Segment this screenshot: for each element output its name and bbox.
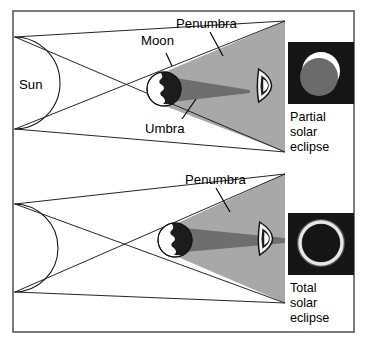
total-solar-eclipse-photo xyxy=(288,213,354,275)
partial-solar-eclipse-photo xyxy=(288,42,354,104)
caption-line: solar xyxy=(290,296,317,310)
label-moon-top: Moon xyxy=(141,33,174,48)
caption-line: Partial xyxy=(290,110,326,124)
caption-line: Total xyxy=(290,281,317,295)
label-penumbra-bottom: Penumbra xyxy=(185,172,247,187)
label-sun-top: Sun xyxy=(19,77,42,92)
label-umbra-top: Umbra xyxy=(145,121,185,136)
caption-line: solar xyxy=(290,125,317,139)
caption-line: eclipse xyxy=(290,311,329,325)
eclipse-diagram-canvas: Sun Moon Penumbra Umbra Penumbra Partial… xyxy=(0,0,368,343)
caption-line: eclipse xyxy=(290,140,329,154)
eclipse-diagram: Sun Moon Penumbra Umbra Penumbra Partial… xyxy=(0,0,368,343)
label-penumbra-top: Penumbra xyxy=(176,16,238,31)
